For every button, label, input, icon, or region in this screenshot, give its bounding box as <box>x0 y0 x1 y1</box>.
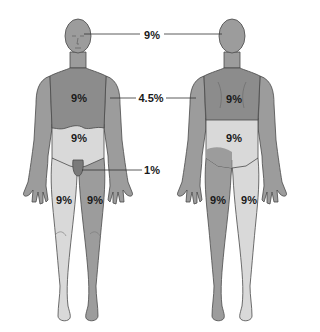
front-abdomen-label: 9% <box>71 132 87 144</box>
back-right-leg-label: 9% <box>241 194 257 206</box>
front-chest-label: 9% <box>71 92 87 104</box>
front-left-leg <box>78 158 105 321</box>
back-figure <box>177 19 286 321</box>
back-upper-label: 9% <box>226 93 242 105</box>
front-genitals <box>73 160 84 176</box>
head-percent-callout: 9% <box>142 29 162 41</box>
front-neck <box>70 52 86 68</box>
back-left-arm <box>177 76 206 204</box>
front-right-leg-label: 9% <box>56 194 72 206</box>
arm-percent-callout: 4.5% <box>136 92 165 104</box>
back-right-arm <box>258 76 287 204</box>
back-left-leg-label: 9% <box>210 194 226 206</box>
front-right-leg <box>51 158 78 321</box>
back-lower-label: 9% <box>226 132 242 144</box>
back-head <box>219 19 245 53</box>
back-left-leg <box>205 158 232 321</box>
front-left-leg-label: 9% <box>87 194 103 206</box>
genitals-percent-callout: 1% <box>142 164 162 176</box>
front-left-arm <box>104 76 133 204</box>
back-right-leg <box>232 158 259 321</box>
front-right-arm <box>23 76 52 204</box>
back-neck <box>224 52 240 68</box>
